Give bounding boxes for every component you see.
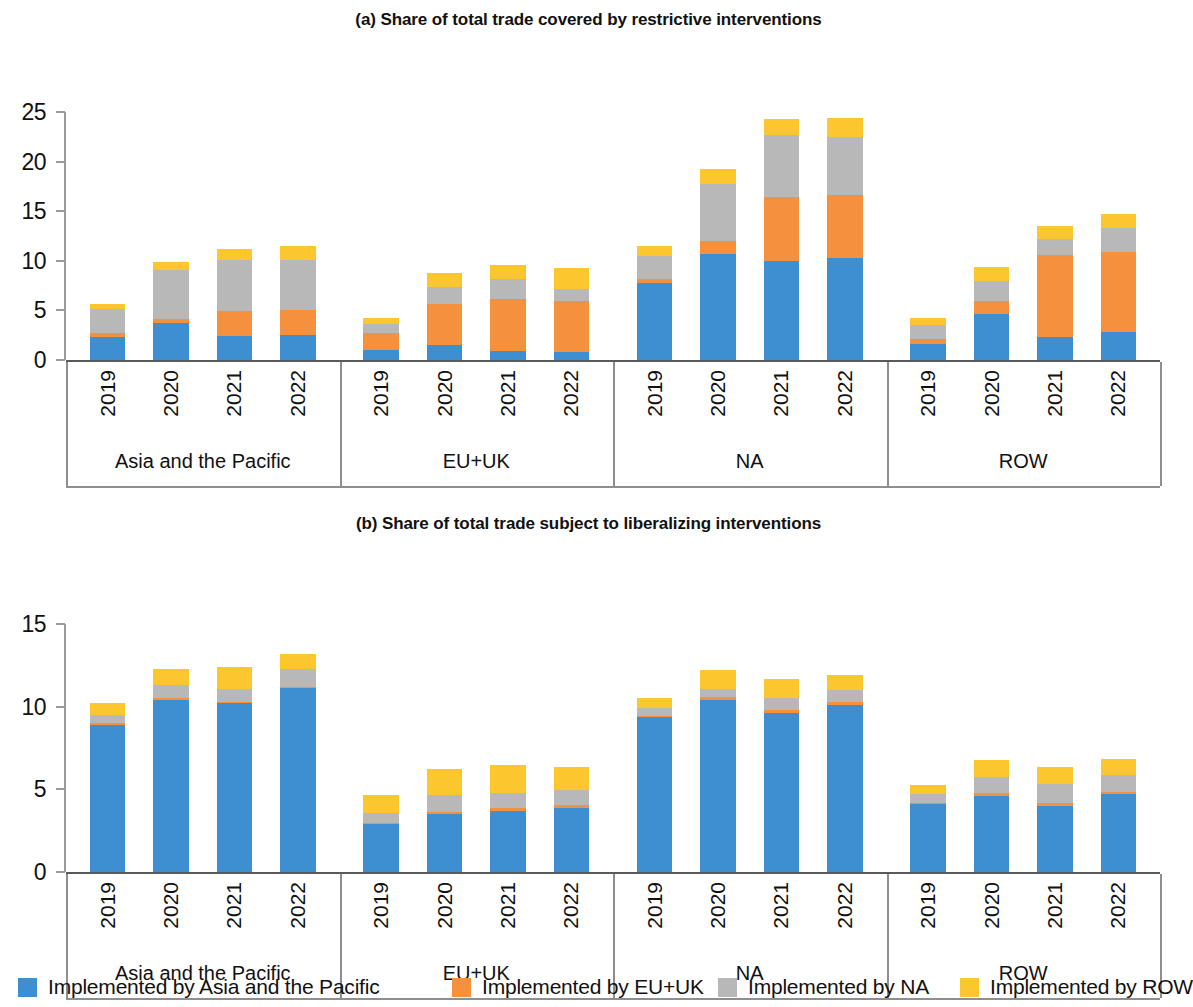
bar-segment — [910, 785, 945, 793]
bar-segment — [637, 698, 672, 708]
stacked-bar — [280, 624, 315, 872]
bar-segment — [1037, 806, 1072, 872]
stacked-bar — [427, 624, 462, 872]
y-axis-line — [64, 112, 66, 360]
legend-item[interactable]: Implemented by NA — [718, 975, 929, 999]
bar-segment — [827, 137, 862, 196]
y-axis-line — [64, 624, 66, 872]
x-axis-year-label: 2020 — [706, 370, 730, 417]
stacked-bar — [764, 112, 799, 360]
x-axis-group-label: NA — [613, 450, 887, 473]
bar-segment — [427, 795, 462, 812]
x-axis-group-label: ROW — [887, 450, 1161, 473]
x-axis-year-label: 2021 — [222, 370, 246, 417]
bar-segment — [910, 318, 945, 325]
bar-segment — [974, 267, 1009, 281]
bar-segment — [90, 309, 125, 333]
x-axis-year-label: 2022 — [286, 370, 310, 417]
group-separator — [340, 362, 342, 486]
legend-label: Implemented by ROW — [990, 975, 1193, 999]
bar-segment — [1101, 228, 1136, 252]
bar-segment — [637, 246, 672, 256]
bar-segment — [363, 324, 398, 333]
bar-segment — [363, 333, 398, 350]
legend-label: Implemented by EU+UK — [482, 975, 704, 999]
legend-swatch-asia-pacific — [18, 978, 37, 997]
bar-segment — [1101, 775, 1136, 792]
bar-segment — [764, 135, 799, 197]
bar-segment — [827, 195, 862, 257]
bar-segment — [1037, 226, 1072, 239]
bar-segment — [554, 790, 589, 805]
group-band-bottom-line — [66, 486, 1160, 488]
x-axis-year-label: 2022 — [1106, 370, 1130, 417]
bar-segment — [280, 688, 315, 872]
bar-segment — [637, 717, 672, 872]
y-axis: 051015 — [0, 534, 60, 876]
x-axis-year-label: 2019 — [369, 882, 393, 929]
bar-segment — [974, 796, 1009, 872]
bar-segment — [1037, 767, 1072, 784]
stacked-bar — [1101, 112, 1136, 360]
bar-segment — [363, 813, 398, 823]
bar-segment — [974, 281, 1009, 302]
bar-segment — [827, 118, 862, 137]
legend-label: Implemented by Asia and the Pacific — [48, 975, 380, 999]
stacked-bar — [490, 112, 525, 360]
bar-segment — [217, 311, 252, 336]
bar-segment — [153, 700, 188, 872]
legend-item[interactable]: Implemented by ROW — [960, 975, 1193, 999]
stacked-bar — [153, 624, 188, 872]
panel-b-title: (b) Share of total trade subject to libe… — [0, 490, 1177, 534]
x-axis-year-label: 2019 — [643, 370, 667, 417]
bar-segment — [827, 258, 862, 360]
x-axis-group-label: Asia and the Pacific — [66, 450, 340, 473]
bar-segment — [363, 350, 398, 360]
bar-segment — [153, 323, 188, 360]
bar-segment — [764, 197, 799, 260]
stacked-bar — [554, 624, 589, 872]
bar-segment — [280, 260, 315, 311]
legend-swatch-eu-uk — [452, 978, 471, 997]
bar-segment — [490, 299, 525, 352]
bar-segment — [554, 808, 589, 872]
bar-segment — [554, 301, 589, 353]
stacked-bar — [217, 624, 252, 872]
bar-segment — [974, 777, 1009, 794]
bar-segment — [490, 765, 525, 793]
bar-segment — [427, 345, 462, 360]
x-axis-year-label: 2019 — [96, 882, 120, 929]
bar-segment — [490, 265, 525, 279]
legend-item[interactable]: Implemented by Asia and the Pacific — [18, 975, 380, 999]
bar-segment — [554, 352, 589, 360]
x-axis-year-label: 2019 — [369, 370, 393, 417]
bar-segment — [490, 351, 525, 360]
y-axis-tick-label: 10 — [0, 247, 46, 274]
bar-segment — [827, 705, 862, 872]
stacked-bar — [974, 624, 1009, 872]
bar-segment — [1101, 332, 1136, 360]
panel-restrictive-interventions: (a) Share of total trade covered by rest… — [0, 0, 1177, 480]
bar-segment — [700, 184, 735, 241]
x-axis-year-label: 2021 — [1043, 370, 1067, 417]
x-axis-year-label: 2019 — [96, 370, 120, 417]
bar-segment — [910, 794, 945, 804]
bar-segment — [90, 703, 125, 715]
bar-segment — [217, 249, 252, 260]
stacked-bar — [974, 112, 1009, 360]
legend-swatch-na — [718, 978, 737, 997]
x-axis-year-label: 2020 — [159, 370, 183, 417]
bar-segment — [490, 793, 525, 808]
bar-segment — [1101, 252, 1136, 332]
bar-segment — [974, 314, 1009, 360]
bar-segment — [217, 336, 252, 360]
x-axis-year-label: 2021 — [769, 370, 793, 417]
legend-item[interactable]: Implemented by EU+UK — [452, 975, 704, 999]
bar-segment — [637, 283, 672, 360]
x-axis-year-label: 2019 — [916, 882, 940, 929]
x-axis-group-label: EU+UK — [340, 450, 614, 473]
x-axis-year-label: 2020 — [980, 370, 1004, 417]
y-axis-tick-label: 15 — [0, 198, 46, 225]
bar-segment — [554, 289, 589, 301]
bar-segment — [700, 254, 735, 360]
